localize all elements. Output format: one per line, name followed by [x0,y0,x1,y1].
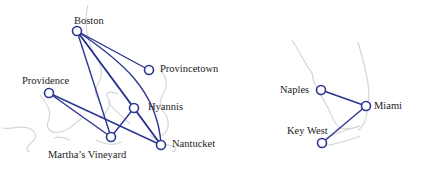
node-marthas-vineyard [107,133,116,142]
label-key-west: Key West [287,126,328,137]
node-nantucket [157,141,166,150]
flight-route-graphs: Boston Provincetown Providence Hyannis M… [0,0,424,169]
edge-marthas-vineyard-hyannis [111,108,134,137]
label-miami: Miami [374,101,402,112]
label-naples: Naples [280,85,309,96]
label-boston: Boston [74,16,104,27]
label-providence: Providence [22,76,69,87]
label-hyannis: Hyannis [148,102,183,113]
node-miami [362,102,371,111]
label-marthas-vineyard: Martha’s Vineyard [48,150,126,161]
node-boston [73,27,82,36]
node-provincetown [145,66,154,75]
node-naples [317,86,326,95]
label-nantucket: Nantucket [172,139,215,150]
label-provincetown: Provincetown [160,64,218,75]
node-providence [45,89,54,98]
edges-new-england [49,31,161,145]
edge-miami-key-west [322,106,366,143]
node-key-west [318,139,327,148]
edge-naples-miami [321,90,366,106]
node-hyannis [130,104,139,113]
edge-providence-nantucket [49,93,161,145]
edge-providence-marthas-vineyard [49,93,111,137]
